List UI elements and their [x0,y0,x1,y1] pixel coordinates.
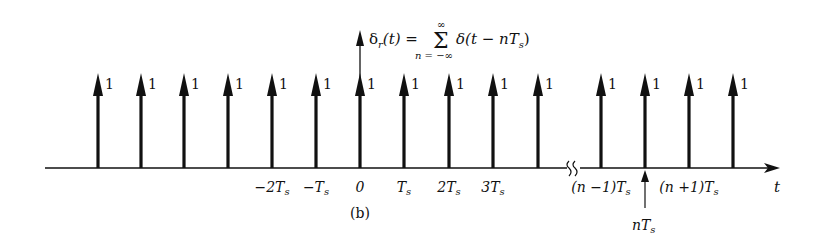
impulse-weight-label: 1 [545,76,554,92]
nTs-pointer: nTs [632,170,656,235]
tick-label: 0 [356,179,365,195]
arrowhead-icon [684,73,694,96]
arrowhead-icon [93,73,103,96]
arrowhead-icon [136,73,146,96]
impulse-weight-label: 1 [235,76,244,92]
nTs-label: nT [632,217,652,233]
arrowhead-icon [223,73,233,96]
arrowhead-icon [311,73,321,96]
tick-label: −Ts [303,179,329,197]
impulse-weight-label: 1 [323,76,332,92]
arrowhead-icon [640,73,650,96]
impulse-weight-label: 1 [148,76,157,92]
center-signal-arrow [356,30,364,168]
impulse-train-diagram: 111111111111111 −2Ts−Ts0Ts2Ts3Ts(n −1)Ts… [0,0,825,251]
tick-label: 3Ts [481,179,504,197]
impulse-weight-label: 1 [367,76,376,92]
svg-text:nTs: nTs [632,217,656,235]
tick-label: 2Ts [436,179,460,197]
impulse-weight-label: 1 [500,76,509,92]
impulse-weight-label: 1 [279,76,288,92]
arrowhead-icon [728,73,738,96]
arrowhead-icon [399,73,409,96]
impulse-weight-label: 1 [456,76,465,92]
impulse-weight-label: 1 [105,76,114,92]
impulse-weights: 111111111111111 [105,76,749,92]
arrowhead-icon [596,73,606,96]
tick-label: (n +1)Ts [659,179,719,197]
time-axis [45,161,780,176]
svg-text:δ(t − nTs): δ(t − nTs) [456,30,530,50]
impulse-weight-label: 1 [696,76,705,92]
impulse-weight-label: 1 [740,76,749,92]
arrowhead-icon [267,73,277,96]
tick-label: −2Ts [254,179,289,197]
impulse-weight-label: 1 [608,76,617,92]
axis-break-icon [567,161,571,176]
svg-text:n = −∞: n = −∞ [415,50,453,61]
arrowhead-icon [444,73,454,96]
arrowhead-icon [488,73,498,96]
figure-caption: (b) [350,205,370,221]
tick-label: (n −1)Ts [571,179,631,197]
impulse-weight-label: 1 [411,76,420,92]
arrowhead-icon [179,73,189,96]
summation-formula: δr(t) = Σ ∞ n = −∞ δ(t − nTs) [369,19,530,61]
tick-label: Ts [397,179,411,197]
impulse-weight-label: 1 [191,76,200,92]
arrowhead-icon [533,73,543,96]
impulse-weight-label: 1 [652,76,661,92]
axis-label-t: t [774,178,781,196]
tick-labels: −2Ts−Ts0Ts2Ts3Ts(n −1)Ts(n +1)Ts [254,179,718,197]
svg-text:∞: ∞ [437,19,445,30]
svg-text:δr(t) =: δr(t) = [369,30,418,50]
